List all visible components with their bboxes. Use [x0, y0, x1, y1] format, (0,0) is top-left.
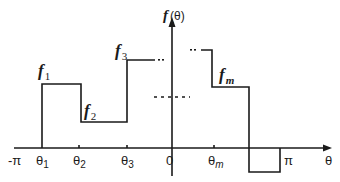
label-f1: f1 — [38, 61, 50, 82]
tick-label-pi: π — [284, 153, 293, 168]
step-function-diagram: f1 f2 f3 fm f(θ) -π θ1 θ2 θ3 0 θm π θ — [0, 0, 340, 182]
continuation-dots-right — [190, 49, 196, 51]
label-f3: f3 — [115, 41, 128, 62]
step-curve-left — [42, 60, 155, 148]
theta-axis — [14, 145, 326, 148]
continuation-dots-left — [158, 59, 164, 61]
theta-axis-arrow-icon — [323, 145, 332, 152]
tick-label-zero: 0 — [166, 153, 173, 168]
label-fm: fm — [219, 65, 235, 86]
tick-label-thetam: θm — [208, 153, 224, 170]
tick-label-theta3: θ3 — [121, 153, 134, 170]
label-f2: f2 — [84, 101, 96, 122]
x-axis-label-theta: θ — [325, 153, 332, 168]
tick-label-theta2: θ2 — [73, 153, 86, 170]
tick-label-theta1: θ1 — [36, 153, 49, 170]
tick-label-neg-pi: -π — [8, 153, 21, 168]
f-axis-label: f(θ) — [163, 7, 185, 23]
